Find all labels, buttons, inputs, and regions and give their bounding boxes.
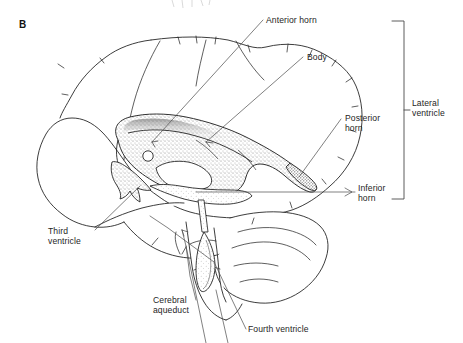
label-anterior-horn: Anterior horn bbox=[266, 15, 317, 25]
label-body: Body bbox=[307, 52, 327, 62]
bracket-path bbox=[392, 21, 404, 199]
interventricular-foramen bbox=[143, 151, 153, 161]
label-inferior-horn: Inferior horn bbox=[358, 183, 385, 203]
top-edge-artifact bbox=[172, 0, 210, 8]
label-lateral-ventricle: Lateral ventricle bbox=[412, 98, 445, 118]
label-posterior-horn: Posterior horn bbox=[345, 113, 380, 133]
medulla-base bbox=[226, 304, 242, 320]
cerebellum-outline bbox=[215, 212, 328, 303]
cerebellum bbox=[215, 212, 328, 303]
label-third-ventricle: Third ventricle bbox=[48, 226, 81, 246]
panel-letter: B bbox=[19, 19, 26, 30]
figure-panel-b: B Anterior horn Body Posterior horn Infe… bbox=[0, 0, 463, 343]
lateral-ventricle-bracket bbox=[392, 21, 410, 199]
label-fourth-ventricle: Fourth ventricle bbox=[248, 324, 309, 334]
brain-ventricle-illustration bbox=[0, 0, 463, 343]
label-cerebral-aqueduct: Cerebral aqueduct bbox=[153, 295, 189, 315]
